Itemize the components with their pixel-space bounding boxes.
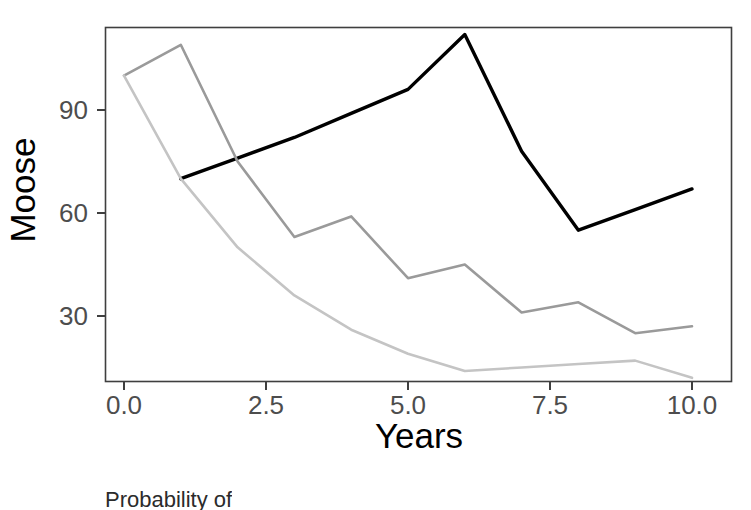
y-axis-ticks — [97, 110, 105, 316]
figure-caption: Probability of — [105, 487, 232, 510]
series-light-gray-line — [124, 76, 692, 378]
series-black-line — [181, 34, 692, 230]
chart-figure: Moose Years 90 60 30 0.0 2.5 5.0 7.5 10.… — [0, 0, 751, 510]
data-series-group — [124, 34, 692, 377]
plot-area — [0, 0, 751, 510]
x-axis-ticks — [124, 382, 692, 390]
